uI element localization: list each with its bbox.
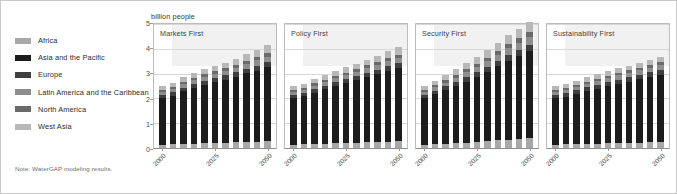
stacked-bar[interactable] bbox=[222, 62, 229, 148]
stacked-bar[interactable] bbox=[353, 64, 360, 148]
legend-item-label: West Asia bbox=[38, 122, 72, 131]
stacked-bar[interactable] bbox=[594, 74, 601, 148]
stacked-bar[interactable] bbox=[505, 35, 512, 148]
stacked-bar[interactable] bbox=[301, 84, 308, 148]
stacked-bar[interactable] bbox=[615, 68, 622, 148]
stacked-bar[interactable] bbox=[385, 51, 392, 148]
bar-slot bbox=[299, 24, 310, 148]
bar-segment bbox=[290, 98, 297, 144]
y-axis: 012345 bbox=[139, 23, 153, 149]
stacked-bar[interactable] bbox=[552, 86, 559, 148]
x-axis-tick-mark bbox=[293, 148, 294, 151]
stacked-bar[interactable] bbox=[432, 81, 439, 148]
stacked-bar[interactable] bbox=[243, 54, 250, 148]
legend-item[interactable]: Latin America and the Caribbean bbox=[15, 84, 140, 101]
stacked-bar[interactable] bbox=[442, 75, 449, 148]
stacked-bar[interactable] bbox=[657, 57, 664, 148]
x-axis-slot bbox=[299, 148, 310, 188]
stacked-bar[interactable] bbox=[484, 50, 491, 148]
stacked-bar[interactable] bbox=[364, 60, 371, 148]
stacked-bar[interactable] bbox=[290, 86, 297, 148]
x-axis-tick-label: 2000 bbox=[283, 152, 298, 167]
stacked-bar[interactable] bbox=[311, 79, 318, 148]
bar-segment bbox=[573, 144, 580, 148]
stacked-bar[interactable] bbox=[647, 60, 654, 148]
bar-segment bbox=[573, 94, 580, 144]
x-axis-slot bbox=[582, 148, 593, 188]
bar-segment bbox=[495, 43, 502, 51]
stacked-bar[interactable] bbox=[212, 66, 219, 148]
stacked-bar[interactable] bbox=[636, 62, 643, 148]
stacked-bar[interactable] bbox=[474, 57, 481, 148]
x-axis-slot bbox=[362, 148, 373, 188]
stacked-bar[interactable] bbox=[526, 22, 533, 148]
bar-slot bbox=[645, 24, 656, 148]
bar-segment bbox=[243, 73, 250, 141]
bar-segment bbox=[647, 77, 654, 142]
legend-item[interactable]: West Asia bbox=[15, 118, 140, 135]
stacked-bar[interactable] bbox=[201, 69, 208, 148]
bar-segment bbox=[159, 98, 166, 144]
stacked-bar[interactable] bbox=[254, 50, 261, 148]
bar-slot bbox=[592, 24, 603, 148]
stacked-bar[interactable] bbox=[395, 47, 402, 148]
stacked-bar[interactable] bbox=[453, 69, 460, 148]
bar-segment bbox=[432, 144, 439, 148]
stacked-bar[interactable] bbox=[463, 63, 470, 148]
y-axis-title: billion people bbox=[151, 12, 195, 21]
x-axis-slot bbox=[645, 148, 656, 188]
stacked-bar[interactable] bbox=[626, 66, 633, 148]
bar-segment bbox=[563, 144, 570, 148]
stacked-bar[interactable] bbox=[516, 28, 523, 148]
legend-item[interactable]: Europe bbox=[15, 66, 140, 83]
stacked-bar[interactable] bbox=[322, 75, 329, 148]
bar-segment bbox=[484, 50, 491, 57]
x-axis-slot bbox=[330, 148, 341, 188]
legend-swatch-icon bbox=[15, 55, 31, 61]
stacked-bar[interactable] bbox=[421, 86, 428, 148]
legend-swatch-icon bbox=[15, 89, 31, 95]
stacked-bar[interactable] bbox=[264, 45, 271, 148]
bar-slot bbox=[362, 24, 373, 148]
x-axis-slot: 2025 bbox=[603, 148, 614, 188]
bar-segment bbox=[453, 143, 460, 148]
stacked-bar[interactable] bbox=[495, 43, 502, 148]
bar-segment bbox=[364, 77, 371, 142]
legend: AfricaAsia and the PacificEuropeLatin Am… bbox=[15, 32, 140, 135]
bar-segment bbox=[484, 72, 491, 141]
bar-group bbox=[416, 24, 538, 148]
stacked-bar[interactable] bbox=[159, 86, 166, 148]
legend-item[interactable]: Africa bbox=[15, 32, 140, 49]
bar-segment bbox=[290, 145, 297, 148]
stacked-bar[interactable] bbox=[343, 67, 350, 148]
legend-item[interactable]: North America bbox=[15, 101, 140, 118]
bar-slot bbox=[451, 24, 462, 148]
legend-swatch-icon bbox=[15, 124, 31, 130]
bar-segment bbox=[201, 85, 208, 144]
bar-segment bbox=[421, 145, 428, 148]
stacked-bar[interactable] bbox=[233, 59, 240, 148]
x-axis-tick-mark bbox=[215, 148, 216, 151]
stacked-bar[interactable] bbox=[563, 84, 570, 148]
stacked-bar[interactable] bbox=[332, 71, 339, 148]
stacked-bar[interactable] bbox=[573, 81, 580, 148]
bar-segment bbox=[657, 75, 664, 142]
stacked-bar[interactable] bbox=[584, 77, 591, 148]
bar-slot bbox=[472, 24, 483, 148]
bar-segment bbox=[526, 51, 533, 138]
x-axis-tick-mark bbox=[346, 148, 347, 151]
stacked-bar[interactable] bbox=[170, 83, 177, 148]
stacked-bar[interactable] bbox=[605, 71, 612, 148]
y-axis-tick-mark bbox=[150, 149, 153, 150]
bar-segment bbox=[243, 142, 250, 148]
bar-segment bbox=[364, 142, 371, 148]
bar-segment bbox=[505, 140, 512, 148]
bar-segment bbox=[159, 145, 166, 148]
chart-panel: Policy First200020252050 bbox=[284, 23, 408, 149]
stacked-bar[interactable] bbox=[374, 56, 381, 148]
stacked-bar[interactable] bbox=[180, 77, 187, 148]
legend-item[interactable]: Asia and the Pacific bbox=[15, 49, 140, 66]
legend-item-label: Latin America and the Caribbean bbox=[38, 88, 149, 97]
x-axis-slot: 2000 bbox=[419, 148, 430, 188]
stacked-bar[interactable] bbox=[191, 73, 198, 148]
